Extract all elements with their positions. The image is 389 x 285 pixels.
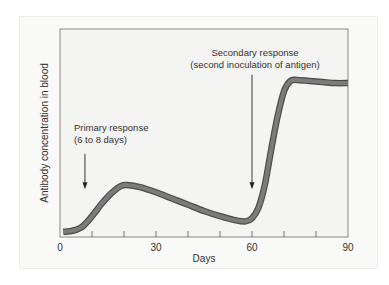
primary-label-line: Primary response <box>74 122 148 133</box>
x-tick-label: 60 <box>246 242 258 253</box>
secondary-label-line: Secondary response <box>211 47 298 58</box>
x-tick-label: 90 <box>342 242 354 253</box>
antibody-response-chart: 0306090 Primary response(6 to 8 days)Sec… <box>0 0 389 285</box>
secondary-label-line: (second inoculation of antigen) <box>190 59 319 70</box>
x-axis-title: Days <box>193 253 216 264</box>
x-tick-label: 30 <box>150 242 162 253</box>
x-tick-label: 0 <box>57 242 63 253</box>
primary-label-line: (6 to 8 days) <box>74 134 127 145</box>
y-axis-title: Antibody concentration in blood <box>39 63 50 203</box>
x-axis-tick-labels: 0306090 <box>57 242 354 253</box>
